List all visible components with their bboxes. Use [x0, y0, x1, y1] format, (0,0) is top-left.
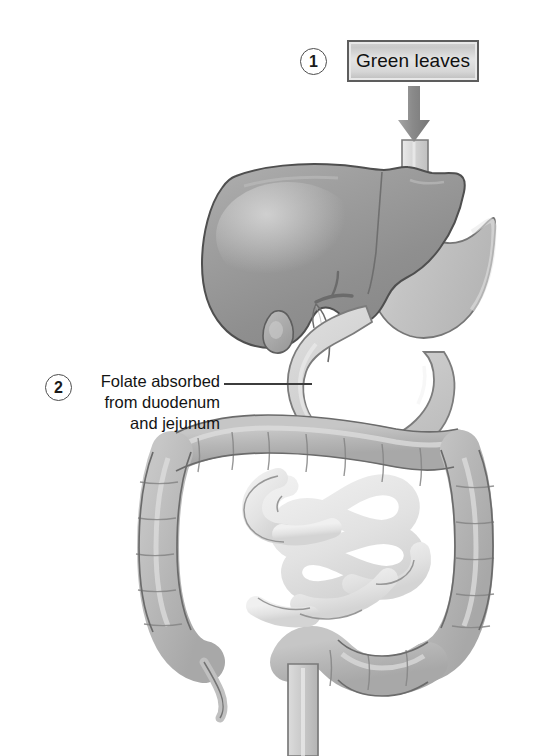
folate-absorption-label: Folate absorbed from duodenum and jejunu…: [76, 371, 220, 434]
rectum-group: [288, 664, 318, 756]
figure-root: 1 Green leaves 2 Folate absorbed from du…: [0, 0, 539, 756]
callout-marker-1[interactable]: 1: [300, 48, 327, 75]
green-leaves-label: Green leaves: [356, 50, 470, 72]
folate-label-line-3: and jejunum: [76, 413, 220, 434]
descending-colon-group: [428, 450, 476, 662]
folate-label-line-2: from duodenum: [76, 392, 220, 413]
green-leaves-arrow: [398, 86, 430, 142]
callout-marker-2[interactable]: 2: [45, 374, 72, 401]
green-leaves-box[interactable]: Green leaves: [347, 40, 479, 82]
small-intestine-group: [252, 478, 421, 618]
folate-label-line-1: Folate absorbed: [76, 371, 220, 392]
